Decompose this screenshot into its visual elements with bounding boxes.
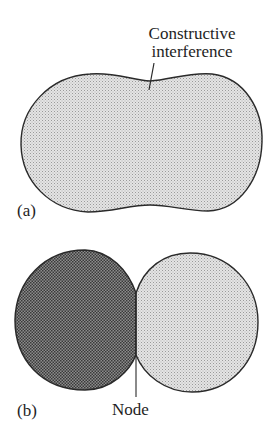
light-lobe — [136, 253, 258, 392]
dark-lobe — [15, 250, 136, 390]
orbital-diagram — [0, 0, 278, 429]
bonding-orbital-lobe — [21, 74, 262, 212]
panel-a-shape — [21, 63, 262, 212]
panel-a-label: (a) — [17, 202, 36, 219]
constructive-interference-line2: interference — [136, 43, 248, 61]
node-label: Node — [112, 401, 149, 418]
constructive-interference-label: Constructive interference — [136, 25, 248, 61]
panel-b-shape — [15, 250, 258, 397]
constructive-interference-line1: Constructive — [136, 25, 248, 43]
panel-b-label: (b) — [17, 402, 37, 419]
